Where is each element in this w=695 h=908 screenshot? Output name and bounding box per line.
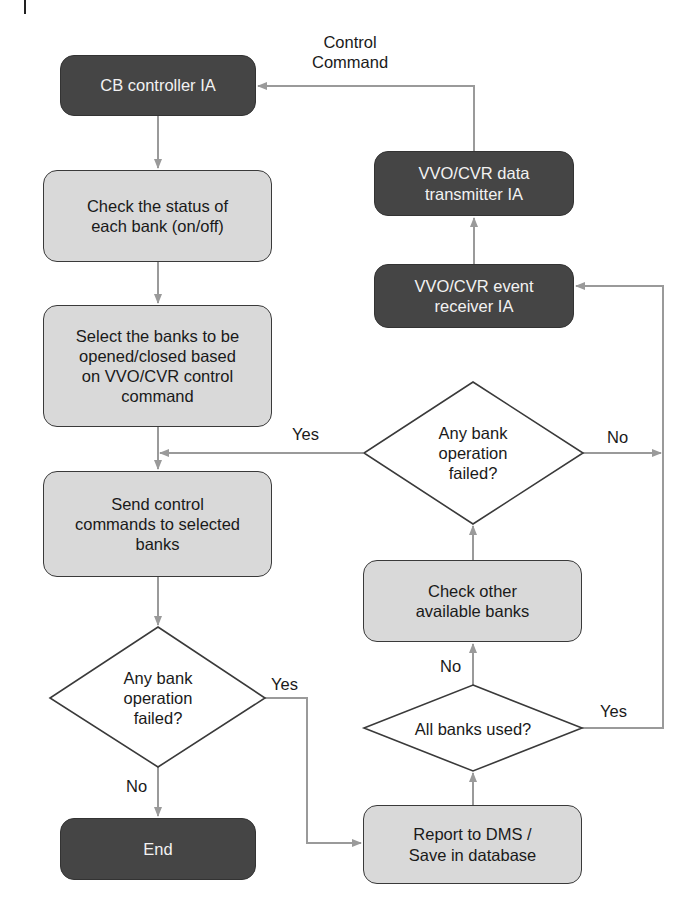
event-receiver-label: VVO/CVR event receiver IA (414, 276, 533, 316)
connectors (0, 0, 695, 908)
event-receiver-node: VVO/CVR event receiver IA (374, 264, 574, 328)
check-status-node: Check the status of each bank (on/off) (43, 170, 272, 262)
report-label: Report to DMS / Save in database (409, 824, 537, 864)
check-status-label: Check the status of each bank (on/off) (87, 196, 228, 236)
send-commands-node: Send control commands to selected banks (43, 471, 272, 577)
check-other-node: Check other available banks (363, 560, 582, 642)
all-used-yes-label: Yes (600, 702, 627, 722)
right-decision-no-label: No (607, 428, 628, 448)
all-banks-used-label: All banks used? (383, 714, 563, 744)
control-command-label: Control Command (312, 33, 388, 73)
right-decision-yes-label: Yes (292, 425, 319, 445)
select-banks-node: Select the banks to be opened/closed bas… (43, 305, 272, 427)
end-node: End (60, 818, 256, 880)
cb-controller-node: CB controller IA (60, 55, 256, 116)
left-decision-yes-label: Yes (271, 675, 298, 695)
end-label: End (143, 839, 172, 859)
select-banks-label: Select the banks to be opened/closed bas… (76, 326, 239, 407)
left-decision-no-label: No (126, 777, 147, 797)
data-transmitter-label: VVO/CVR data transmitter IA (419, 163, 530, 203)
decision-right-label: Any bank operation failed? (413, 407, 533, 499)
send-commands-label: Send control commands to selected banks (75, 494, 240, 554)
cb-controller-label: CB controller IA (100, 75, 216, 95)
all-used-no-label: No (440, 657, 461, 677)
decision-left-label: Any bank operation failed? (88, 652, 228, 744)
flowchart-canvas: CB controller IA Check the status of eac… (0, 0, 695, 908)
data-transmitter-node: VVO/CVR data transmitter IA (374, 151, 574, 216)
report-node: Report to DMS / Save in database (363, 805, 582, 884)
check-other-label: Check other available banks (416, 581, 530, 621)
